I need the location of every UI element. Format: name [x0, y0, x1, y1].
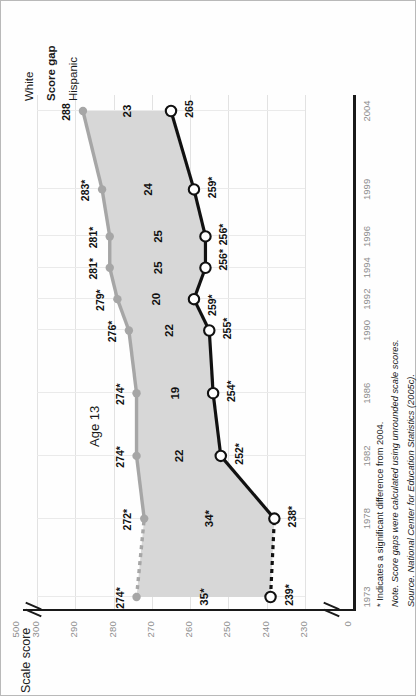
footnotes: * Indicates a significant difference fro…	[373, 339, 419, 607]
label-white-1990: 276*	[106, 321, 118, 343]
label-gap-1996: 25	[152, 230, 164, 243]
label-hispanic-1992: 259*	[206, 294, 218, 316]
label-gap-1990: 22	[163, 324, 175, 337]
label-gap-1973: 35*	[198, 588, 210, 605]
label-gap-1986: 19	[169, 387, 181, 400]
label-hispanic-2004: 265	[183, 100, 195, 118]
marker-hispanic-1996	[200, 231, 210, 241]
label-white-1992: 279*	[94, 289, 106, 311]
marker-hispanic-1973	[265, 592, 275, 602]
marker-hispanic-1978	[269, 513, 279, 523]
label-hispanic-1973: 239*	[283, 584, 295, 606]
label-gap-1978: 34*	[203, 510, 215, 527]
marker-white-1990	[125, 326, 133, 334]
label-white-1999: 283*	[79, 180, 91, 202]
label-white-1994: 281*	[87, 258, 99, 280]
score-gap-shading	[83, 111, 274, 597]
label-white-1986: 274*	[114, 383, 126, 405]
label-gap-2004: 23	[121, 105, 133, 118]
marker-hispanic-1990	[204, 325, 214, 335]
marker-hispanic-1994	[200, 263, 210, 273]
label-gap-1992: 20	[150, 293, 162, 306]
footnote-2: Note. Score gaps were calculated using u…	[388, 339, 403, 607]
legend-item-gap: Score gap	[45, 45, 57, 101]
label-white-2004: 288	[60, 103, 72, 121]
label-gap-1999: 24	[142, 183, 154, 196]
label-hispanic-1999: 259*	[206, 177, 218, 199]
label-hispanic-1994: 256*	[217, 249, 229, 271]
label-hispanic-1986: 254*	[225, 380, 237, 402]
marker-white-1992	[113, 295, 121, 303]
label-white-1982: 274*	[114, 446, 126, 468]
marker-white-1999	[98, 185, 106, 193]
marker-white-1996	[106, 232, 114, 240]
marker-white-1978	[140, 514, 148, 522]
footnote-1: * Indicates a significant difference fro…	[373, 339, 388, 607]
legend-item-white: White	[23, 72, 35, 101]
label-hispanic-1978: 238*	[286, 506, 298, 528]
marker-white-1982	[132, 452, 140, 460]
marker-hispanic-1999	[189, 184, 199, 194]
label-hispanic-1996: 256*	[217, 224, 229, 246]
label-hispanic-1990: 255*	[221, 318, 233, 340]
label-white-1978: 272*	[121, 509, 133, 531]
label-gap-1994: 25	[152, 261, 164, 274]
marker-hispanic-1982	[216, 451, 226, 461]
marker-hispanic-1992	[189, 294, 199, 304]
marker-white-1986	[132, 389, 140, 397]
chart-figure: 5003002902802702602502402300 19731978198…	[1, 1, 417, 696]
marker-hispanic-2004	[166, 106, 176, 116]
label-hispanic-1982: 252*	[233, 443, 245, 465]
legend-item-hispanic: Hispanic	[67, 57, 79, 101]
label-white-1996: 281*	[87, 227, 99, 249]
rotated-figure-canvas: 5003002902802702602502402300 19731978198…	[1, 1, 417, 696]
marker-white-2004	[79, 107, 87, 115]
marker-white-1994	[106, 264, 114, 272]
footnote-3: Source. National Center for Education St…	[404, 339, 419, 607]
marker-hispanic-1986	[208, 388, 218, 398]
label-white-1973: 274*	[114, 587, 126, 609]
marker-white-1973	[132, 593, 140, 601]
label-gap-1982: 22	[173, 450, 185, 463]
